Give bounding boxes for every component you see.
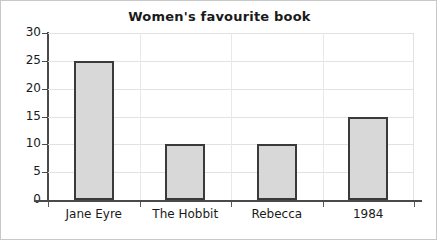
- x-tick-label: 1984: [323, 207, 415, 221]
- bar: [165, 144, 205, 200]
- y-axis-tick-labels: 051015202530: [1, 1, 41, 240]
- y-tick-label: 0: [7, 192, 41, 206]
- x-axis-line: [34, 200, 422, 202]
- y-tick-label: 10: [7, 136, 41, 150]
- bar: [74, 61, 114, 200]
- bar-chart: Women's favourite book 051015202530 Jane…: [0, 0, 437, 240]
- plot-area: [48, 33, 414, 200]
- gridline-vertical: [323, 33, 324, 200]
- y-tick-label: 5: [7, 164, 41, 178]
- y-tick-label: 30: [7, 25, 41, 39]
- bar: [257, 144, 297, 200]
- chart-title: Women's favourite book: [1, 9, 437, 24]
- plot-right-edge: [413, 33, 414, 200]
- bar: [348, 117, 388, 201]
- x-tick-mark: [414, 202, 415, 207]
- gridline-vertical: [140, 33, 141, 200]
- x-tick-label: Jane Eyre: [48, 207, 140, 221]
- gridline-vertical: [231, 33, 232, 200]
- y-tick-label: 15: [7, 109, 41, 123]
- x-tick-label: The Hobbit: [140, 207, 232, 221]
- y-tick-label: 20: [7, 81, 41, 95]
- x-tick-label: Rebecca: [231, 207, 323, 221]
- y-tick-label: 25: [7, 53, 41, 67]
